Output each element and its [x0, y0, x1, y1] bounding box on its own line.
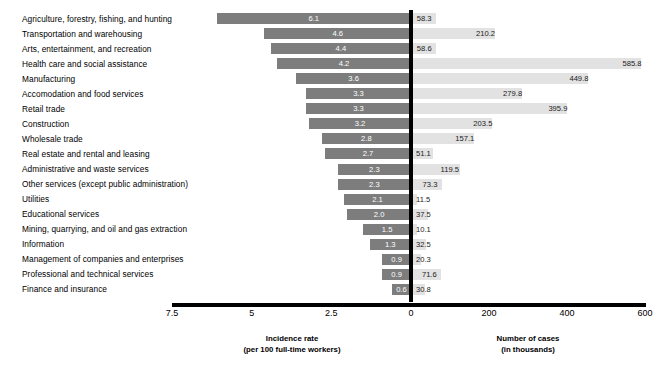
incidence-rate-value: 2.0 — [347, 209, 411, 220]
incidence-rate-value: 3.3 — [306, 88, 411, 99]
right-axis-title-line1: Number of cases — [497, 334, 560, 343]
chart-row: Construction3.2203.5 — [0, 116, 671, 131]
category-label: Accomodation and food services — [22, 89, 143, 99]
chart-row: Educational services2.037.5 — [0, 207, 671, 222]
incidence-rate-value: 3.2 — [309, 118, 411, 129]
chart-row: Management of companies and enterprises0… — [0, 252, 671, 267]
category-label: Administrative and waste services — [22, 164, 149, 174]
incidence-rate-value: 3.3 — [306, 103, 411, 114]
incidence-rate-value: 2.7 — [325, 148, 411, 159]
chart-row: Accomodation and food services3.3279.8 — [0, 86, 671, 101]
number-of-cases-value: 71.6 — [419, 269, 437, 280]
chart-row: Manufacturing3.6449.8 — [0, 71, 671, 86]
category-label: Transportation and warehousing — [22, 29, 142, 39]
incidence-rate-value: 6.1 — [217, 13, 411, 24]
left-axis-tick: 0 — [408, 308, 413, 318]
left-axis-tick: 7.5 — [166, 308, 179, 318]
chart-row: Finance and insurance0.630.8 — [0, 282, 671, 297]
number-of-cases-value: 58.6 — [414, 43, 432, 54]
number-of-cases-value: 58.3 — [414, 13, 432, 24]
incidence-rate-value: 4.4 — [271, 43, 411, 54]
chart-row: Mining, quarrying, and oil and gas extra… — [0, 222, 671, 237]
right-axis-tick: 600 — [637, 308, 652, 318]
number-of-cases-value: 73.3 — [420, 179, 438, 190]
chart-row: Administrative and waste services2.3119.… — [0, 162, 671, 177]
incidence-rate-value: 1.5 — [363, 224, 411, 235]
chart-row: Arts, entertainment, and recreation4.458… — [0, 41, 671, 56]
chart-row: Agriculture, forestry, fishing, and hunt… — [0, 11, 671, 26]
incidence-rate-value: 3.6 — [296, 73, 411, 84]
number-of-cases-value: 10.1 — [413, 224, 431, 235]
number-of-cases-value: 11.5 — [413, 194, 430, 205]
chart-row: Other services (except public administra… — [0, 177, 671, 192]
number-of-cases-value: 119.5 — [438, 164, 459, 175]
category-label: Real estate and rental and leasing — [22, 149, 150, 159]
category-label: Other services (except public administra… — [22, 179, 188, 189]
number-of-cases-bar — [413, 58, 641, 69]
number-of-cases-value: 157.1 — [452, 133, 474, 144]
right-axis-title-line2: (in thousands) — [501, 345, 555, 354]
number-of-cases-value: 203.5 — [470, 118, 492, 129]
left-axis-tick: 5 — [249, 308, 254, 318]
incidence-rate-value: 1.3 — [370, 239, 411, 250]
category-label: Mining, quarrying, and oil and gas extra… — [22, 224, 187, 234]
number-of-cases-value: 395.9 — [545, 103, 567, 114]
right-axis-title: Number of cases (in thousands) — [497, 333, 560, 355]
incidence-rate-value: 2.1 — [344, 194, 411, 205]
incidence-rate-value: 2.8 — [322, 133, 411, 144]
number-of-cases-value: 449.8 — [566, 73, 588, 84]
chart-row: Transportation and warehousing4.6210.2 — [0, 26, 671, 41]
chart-row: Wholesale trade2.8157.1 — [0, 131, 671, 146]
category-label: Manufacturing — [22, 74, 75, 84]
left-axis-title: Incidence rate (per 100 full-time worker… — [243, 333, 340, 355]
incidence-rate-value: 4.6 — [264, 28, 411, 39]
number-of-cases-value: 30.8 — [413, 284, 431, 295]
number-of-cases-value: 279.8 — [500, 88, 522, 99]
right-axis-tick: 200 — [481, 308, 496, 318]
number-of-cases-bar — [413, 103, 567, 114]
chart-row: Professional and technical services0.971… — [0, 267, 671, 282]
bottom-axis-line — [172, 303, 646, 307]
number-of-cases-value: 37.5 — [413, 209, 431, 220]
incidence-rate-value: 2.3 — [338, 179, 411, 190]
category-label: Utilities — [22, 194, 49, 204]
category-label: Agriculture, forestry, fishing, and hunt… — [22, 14, 172, 24]
number-of-cases-value: 51.1 — [413, 148, 431, 159]
number-of-cases-value: 585.8 — [619, 58, 641, 69]
chart-row: Information1.332.5 — [0, 237, 671, 252]
incidence-rate-value: 4.2 — [277, 58, 411, 69]
category-label: Arts, entertainment, and recreation — [22, 44, 152, 54]
category-label: Health care and social assistance — [22, 59, 147, 69]
category-label: Management of companies and enterprises — [22, 254, 184, 264]
incidence-rate-value: 2.3 — [338, 164, 411, 175]
category-label: Information — [22, 239, 64, 249]
left-axis-title-line2: (per 100 full-time workers) — [243, 345, 340, 354]
chart-row: Health care and social assistance4.2585.… — [0, 56, 671, 71]
number-of-cases-value: 32.5 — [413, 239, 431, 250]
incidence-rate-value: 0.9 — [382, 254, 411, 265]
number-of-cases-value: 210.2 — [473, 28, 495, 39]
category-label: Professional and technical services — [22, 269, 153, 279]
center-axis-line — [409, 10, 413, 302]
diverging-bar-chart: Agriculture, forestry, fishing, and hunt… — [0, 0, 671, 374]
right-axis-tick: 400 — [559, 308, 574, 318]
category-label: Wholesale trade — [22, 134, 83, 144]
chart-row: Utilities2.111.5 — [0, 192, 671, 207]
number-of-cases-bar — [413, 73, 588, 84]
chart-row: Real estate and rental and leasing2.751.… — [0, 146, 671, 161]
chart-row: Retail trade3.3395.9 — [0, 101, 671, 116]
left-axis-title-line1: Incidence rate — [266, 334, 318, 343]
category-label: Retail trade — [22, 104, 65, 114]
category-label: Educational services — [22, 209, 99, 219]
incidence-rate-value: 0.9 — [382, 269, 411, 280]
left-axis-tick: 2.5 — [325, 308, 338, 318]
category-label: Construction — [22, 119, 69, 129]
category-label: Finance and insurance — [22, 284, 107, 294]
number-of-cases-value: 20.3 — [413, 254, 431, 265]
